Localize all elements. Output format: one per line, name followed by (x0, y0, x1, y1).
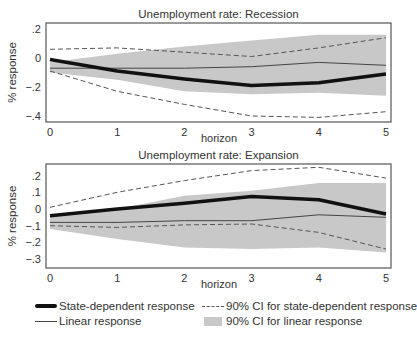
legend-label: Linear response (59, 315, 141, 327)
x-axis-label: horizon (201, 132, 237, 144)
y-tick-label: −.2 (25, 236, 41, 248)
legend-item-state-dependent: State-dependent response (35, 299, 195, 313)
legend-label: 90% CI for state-dependent response (226, 300, 417, 312)
thick-line-swatch-icon (35, 304, 57, 308)
y-tick-label: −.2 (25, 81, 41, 93)
x-tick-label: 1 (114, 272, 120, 284)
x-tick-label: 3 (249, 272, 255, 284)
x-tick-label: 5 (383, 272, 389, 284)
panel-recession: Unemployment rate: Recession.20−.2−.4012… (6, 8, 391, 144)
x-tick-label: 3 (249, 126, 255, 138)
legend-item-linear: Linear response (35, 314, 141, 328)
y-axis-label: % response (6, 186, 18, 247)
plot-area (50, 35, 386, 118)
chart-canvas: Unemployment rate: Recession.20−.2−.4012… (0, 0, 404, 298)
legend: State-dependent response 90% CI for stat… (0, 298, 404, 330)
y-tick-label: 0 (35, 52, 41, 64)
y-tick-label: .1 (32, 186, 41, 198)
y-axis-label: % response (6, 42, 18, 103)
gray-fill-swatch-icon (204, 317, 222, 326)
legend-label: 90% CI for linear response (226, 315, 362, 327)
legend-item-ci-state-dependent: 90% CI for state-dependent response (202, 299, 417, 313)
x-tick-label: 2 (181, 126, 187, 138)
panel-expansion: Unemployment rate: Expansion.2.10−.1−.2−… (6, 149, 391, 290)
x-tick-label: 4 (316, 126, 322, 138)
x-tick-label: 0 (47, 126, 53, 138)
dashed-line-swatch-icon (202, 306, 224, 307)
y-tick-label: .2 (32, 170, 41, 182)
legend-item-ci-linear: 90% CI for linear response (204, 314, 362, 328)
x-tick-label: 2 (181, 272, 187, 284)
y-tick-label: −.3 (25, 253, 41, 265)
plot-area (50, 167, 386, 252)
y-tick-label: .2 (32, 23, 41, 35)
x-tick-label: 5 (383, 126, 389, 138)
x-axis-label: horizon (201, 278, 237, 290)
thin-line-swatch-icon (35, 321, 57, 322)
legend-label: State-dependent response (59, 300, 195, 312)
y-tick-label: −.1 (25, 220, 41, 232)
panel-title: Unemployment rate: Expansion (138, 149, 298, 161)
y-tick-label: 0 (35, 203, 41, 215)
ci-linear-band (50, 183, 386, 252)
x-tick-label: 1 (114, 126, 120, 138)
x-tick-label: 4 (316, 272, 322, 284)
y-tick-label: −.4 (25, 110, 41, 122)
panel-title: Unemployment rate: Recession (138, 8, 298, 20)
x-tick-label: 0 (47, 272, 53, 284)
